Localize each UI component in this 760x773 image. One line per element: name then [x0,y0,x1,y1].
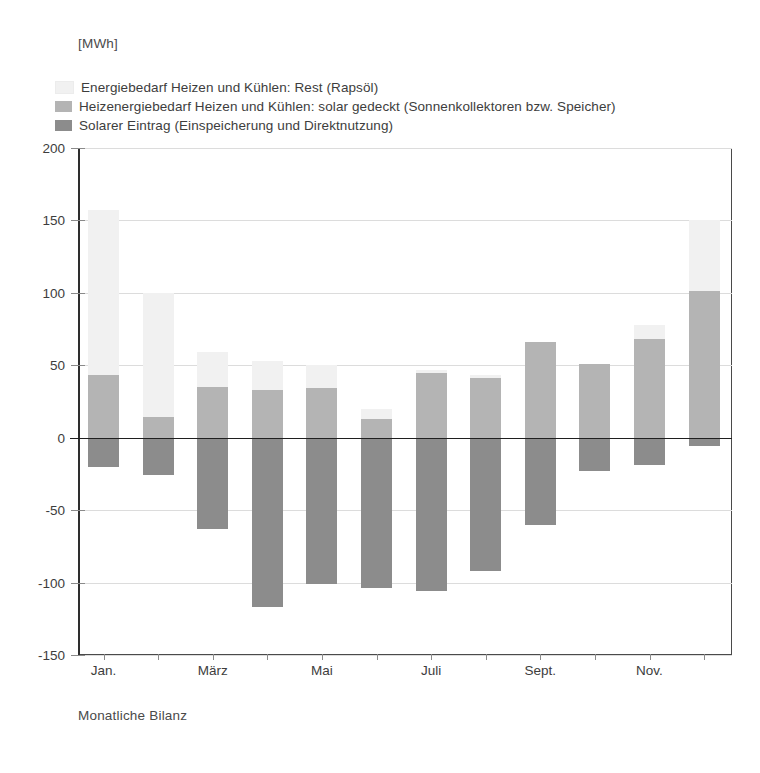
legend-swatch-icon [55,101,72,112]
y-axis-tick [71,510,85,511]
bar-group [470,148,501,655]
bar-segment-solar-input [579,438,610,471]
y-axis-tick-label: 0 [57,430,65,445]
bar-segment-solar-input [470,438,501,571]
bar-segment-rest [88,210,119,375]
x-axis-tick [322,654,323,660]
bar-group [361,148,392,655]
x-axis-tick [595,654,596,660]
x-axis-tick-label: Juli [421,663,441,678]
legend-item: Energiebedarf Heizen und Kühlen: Rest (R… [55,78,715,97]
bar-segment-solar-input [634,438,665,466]
legend-item: Heizenergiebedarf Heizen und Kühlen: sol… [55,97,715,116]
bar-segment-solar-input [143,438,174,476]
bar-segment-rest [143,293,174,418]
x-axis-tick [377,654,378,660]
bar-segment-rest [689,220,720,291]
bar-segment-rest [361,409,392,419]
x-axis-tick-label: Jan. [91,663,117,678]
y-axis-tick [71,220,85,221]
x-axis-tick [486,654,487,660]
y-axis-tick-label: 100 [42,285,65,300]
bar-segment-rest [306,365,337,388]
y-axis-tick-label: 150 [42,213,65,228]
y-axis-unit-label: [MWh] [78,36,118,51]
bar-segment-solar-covered [416,373,447,438]
bar-group [416,148,447,655]
chart-legend: Energiebedarf Heizen und Kühlen: Rest (R… [55,78,715,135]
x-axis-tick [104,654,105,660]
bar-segment-solar-covered [470,378,501,437]
bar-group [88,148,119,655]
x-axis-tick [540,654,541,660]
x-axis-tick-label: März [198,663,228,678]
y-axis-tick [71,655,85,656]
bar-segment-solar-covered [689,291,720,437]
y-axis-line [78,148,80,655]
y-axis-tick [71,583,85,584]
bar-segment-solar-covered [634,339,665,438]
legend-swatch-icon [55,81,74,94]
y-axis-tick-label: 200 [42,141,65,156]
bar-segment-solar-covered [143,417,174,437]
bar-group [252,148,283,655]
bar-segment-solar-input [416,438,447,592]
legend-label: Solarer Eintrag (Einspeicherung und Dire… [79,118,393,133]
y-axis-tick [71,365,85,366]
bar-segment-solar-covered [197,387,228,438]
legend-label: Energiebedarf Heizen und Kühlen: Rest (R… [81,80,378,95]
bar-group [525,148,556,655]
bar-segment-solar-covered [361,419,392,438]
bar-group [143,148,174,655]
bar-segment-solar-input [197,438,228,529]
plot-border-right [731,148,732,655]
bar-segment-solar-covered [579,364,610,438]
x-axis-tick [267,654,268,660]
x-axis-tick-label: Sept. [525,663,557,678]
y-axis-tick-label: 50 [50,358,65,373]
bar-segment-solar-input [252,438,283,607]
bar-group [306,148,337,655]
bar-segment-solar-covered [306,388,337,437]
bar-segment-solar-input [525,438,556,525]
bar-segment-solar-covered [88,375,119,437]
bar-segment-rest [252,361,283,390]
legend-label: Heizenergiebedarf Heizen und Kühlen: sol… [79,99,616,114]
legend-item: Solarer Eintrag (Einspeicherung und Dire… [55,116,715,135]
zero-axis-line [70,438,732,440]
y-axis-tick-label: -50 [45,503,65,518]
bar-group [634,148,665,655]
bar-group [579,148,610,655]
x-axis-tick [158,654,159,660]
bar-group [197,148,228,655]
y-axis-tick-label: -150 [38,648,65,663]
gridline [78,655,732,656]
bar-group [689,148,720,655]
bar-segment-solar-input [361,438,392,589]
plot-area: 200150100500-50-100-150 Jan.MärzMaiJuliS… [78,148,732,655]
bar-segment-solar-input [306,438,337,584]
bar-segment-rest [197,352,228,387]
bar-segment-rest [634,325,665,339]
bar-segment-solar-input [88,438,119,467]
chart-caption: Monatliche Bilanz [78,708,187,723]
chart-figure: [MWh] Energiebedarf Heizen und Kühlen: R… [0,0,760,773]
x-axis-tick [704,654,705,660]
x-axis-tick [213,654,214,660]
x-axis-tick-label: Nov. [636,663,663,678]
bar-segment-solar-covered [525,342,556,438]
x-axis-tick [650,654,651,660]
bar-segment-solar-covered [252,390,283,438]
y-axis-tick [71,148,85,149]
legend-swatch-icon [55,120,72,131]
x-axis-tick [431,654,432,660]
y-axis-tick [71,293,85,294]
x-axis-tick-label: Mai [311,663,333,678]
y-axis-tick-label: -100 [38,575,65,590]
